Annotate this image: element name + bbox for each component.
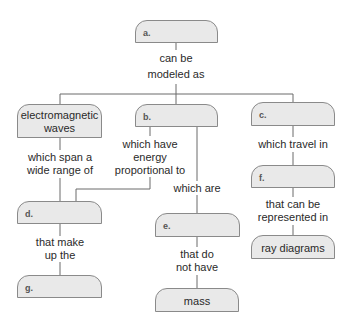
node-c-label: c. <box>259 109 267 122</box>
link-label-which-travel-in: which travel in <box>257 138 329 151</box>
link-label-line: which span a <box>27 151 93 164</box>
node-d[interactable]: d. <box>17 201 102 224</box>
node-e[interactable]: e. <box>155 213 240 237</box>
link-label-line: can be <box>148 52 205 65</box>
link-label-line: that make <box>36 236 84 249</box>
node-f[interactable]: f. <box>251 165 335 188</box>
link-label-line: energy <box>115 151 185 164</box>
link-label-which-have-energy-proportional-to: which have energy proportional to <box>114 138 186 177</box>
link-label-line: that do <box>176 248 218 261</box>
node-ray-diagrams: ray diagrams <box>251 235 335 259</box>
node-electromagnetic-waves-line1: electromagnetic <box>21 109 99 122</box>
link-label-line: which have <box>115 138 185 151</box>
node-d-label: d. <box>25 208 33 221</box>
link-label-line: that can be <box>258 198 328 211</box>
node-mass: mass <box>155 288 239 312</box>
link-label-line: wide range of <box>27 164 93 177</box>
link-label-which-span-a-wide-range-of: which span a wide range of <box>26 151 94 177</box>
node-c[interactable]: c. <box>251 102 335 126</box>
link-label-line: not have <box>176 261 218 274</box>
node-b[interactable]: b. <box>135 104 218 127</box>
node-f-label: f. <box>259 172 265 185</box>
link-label-line: up the <box>36 249 84 262</box>
node-electromagnetic-waves: electromagnetic waves <box>17 104 102 138</box>
link-label-line: which are <box>173 182 220 195</box>
node-e-label: e. <box>163 220 171 233</box>
link-label-that-do-not-have: that do not have <box>175 248 219 274</box>
link-label-can-be-modeled-as: can be modeled as <box>147 52 206 81</box>
node-g-label: g. <box>25 282 33 295</box>
node-a[interactable]: a. <box>135 20 218 43</box>
node-b-label: b. <box>143 111 151 124</box>
node-a-label: a. <box>143 27 151 40</box>
node-electromagnetic-waves-line2: waves <box>44 122 75 135</box>
node-mass-label: mass <box>184 295 210 308</box>
link-label-line: which travel in <box>258 138 328 151</box>
node-ray-diagrams-label: ray diagrams <box>261 242 325 255</box>
link-label-that-make-up-the: that make up the <box>35 236 85 262</box>
link-label-that-can-be-represented-in: that can be represented in <box>257 198 329 224</box>
link-label-line: represented in <box>258 211 328 224</box>
link-label-which-are: which are <box>172 182 221 195</box>
link-label-line: modeled as <box>148 68 205 81</box>
link-label-line: proportional to <box>115 164 185 177</box>
node-g[interactable]: g. <box>17 275 102 298</box>
